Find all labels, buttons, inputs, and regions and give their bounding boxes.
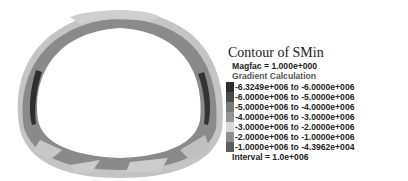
interval-label: Interval = 1.0e+006 <box>232 152 408 162</box>
legend-range-label: -4.0000e+006 to -3.0000e+006 <box>235 112 354 122</box>
legend-swatch <box>226 112 234 122</box>
legend-rows: -6.3249e+006 to -6.0000e+006 -6.0000e+00… <box>226 82 408 152</box>
legend-swatch <box>226 122 234 132</box>
legend-row: -6.0000e+006 to -5.0000e+006 <box>226 92 408 102</box>
legend-range-label: -5.0000e+006 to -4.0000e+006 <box>235 102 354 112</box>
tunnel-lining-shape <box>0 0 240 181</box>
legend-swatch <box>226 82 234 92</box>
legend-range-label: -3.0000e+006 to -2.0000e+006 <box>235 122 354 132</box>
legend: Contour of SMin Magfac = 1.000e+000 Grad… <box>226 45 408 162</box>
legend-range-label: -6.3249e+006 to -6.0000e+006 <box>235 82 354 92</box>
legend-swatch <box>226 92 234 102</box>
magfac-label: Magfac = 1.000e+000 <box>232 61 408 71</box>
legend-swatch <box>226 142 234 152</box>
legend-row: -6.3249e+006 to -6.0000e+006 <box>226 82 408 92</box>
legend-title: Contour of SMin <box>228 45 408 61</box>
calculation-label: Gradient Calculation <box>232 71 408 81</box>
tunnel-contour-plot <box>0 0 240 181</box>
legend-range-label: -1.0000e+006 to -4.3962e+004 <box>235 142 354 152</box>
legend-swatch <box>226 102 234 112</box>
legend-range-label: -6.0000e+006 to -5.0000e+006 <box>235 92 354 102</box>
legend-swatch <box>226 132 234 142</box>
legend-range-label: -2.0000e+006 to -1.0000e+006 <box>235 132 354 142</box>
legend-row: -4.0000e+006 to -3.0000e+006 <box>226 112 408 122</box>
legend-row: -1.0000e+006 to -4.3962e+004 <box>226 142 408 152</box>
legend-row: -5.0000e+006 to -4.0000e+006 <box>226 102 408 112</box>
legend-row: -3.0000e+006 to -2.0000e+006 <box>226 122 408 132</box>
legend-row: -2.0000e+006 to -1.0000e+006 <box>226 132 408 142</box>
